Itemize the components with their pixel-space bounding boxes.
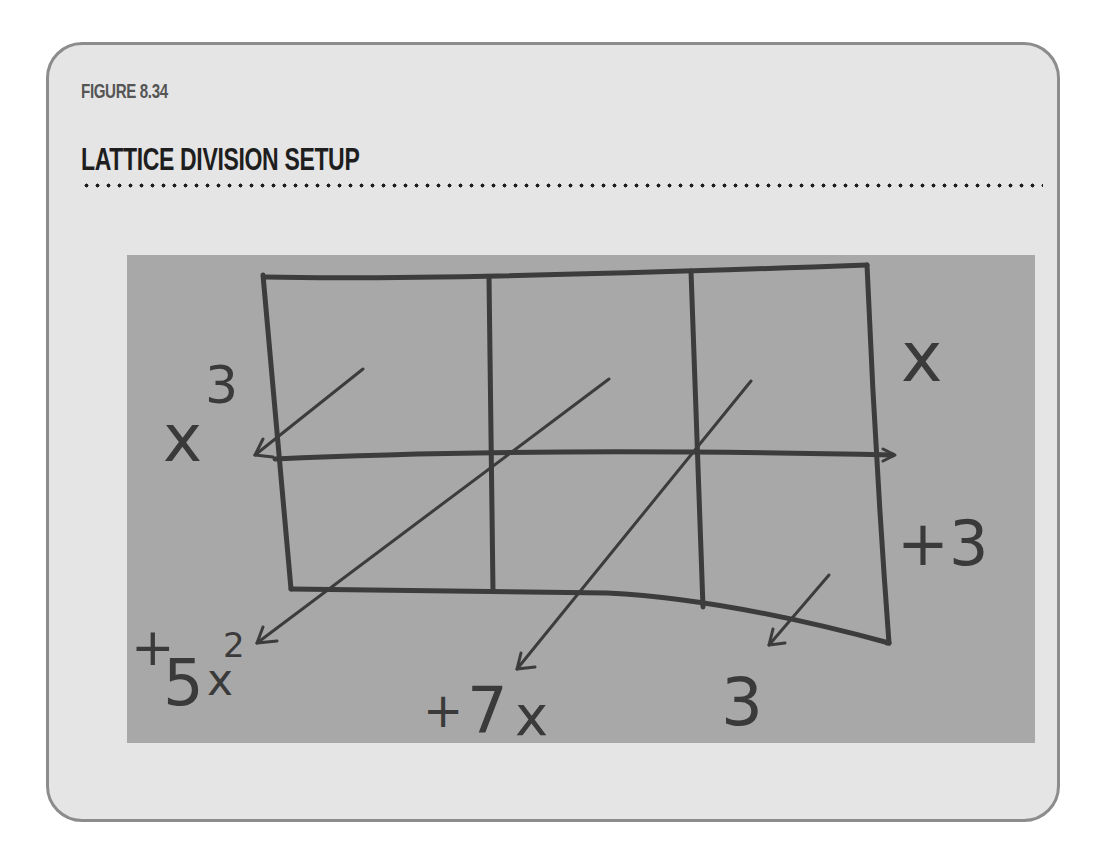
figure-title: LATTICE DIVISION SETUP <box>81 141 359 178</box>
grid-col-divider-2 <box>691 271 703 607</box>
bottom-term-2-coef: 7 <box>467 674 508 743</box>
bottom-term-2-sign: + <box>423 682 463 738</box>
figure-card: FIGURE 8.34 LATTICE DIVISION SETUP <box>46 42 1060 822</box>
top-left-term: x <box>163 400 202 477</box>
top-left-exponent: 3 <box>205 355 238 415</box>
arrow-diagonal-2 <box>257 379 609 643</box>
arrow-diagonal-3 <box>517 381 751 669</box>
grid-left-edge <box>263 275 291 589</box>
bottom-term-1-exp: 2 <box>223 625 245 665</box>
bottom-term-3-coef: 3 <box>721 664 763 741</box>
right-term-x: x <box>901 316 942 398</box>
right-term-plus3: +3 <box>897 507 988 580</box>
grid-middle-row <box>275 452 893 459</box>
bottom-term-1-coef: 5 <box>163 646 204 720</box>
dotted-divider <box>81 183 1043 188</box>
grid-top-edge <box>265 265 867 278</box>
grid-col-divider-1 <box>489 277 493 591</box>
arrow-diagonal-4 <box>769 575 829 645</box>
lattice-diagram: x 3 x +3 + 5 x 2 + 7 x 3 <box>127 255 1035 743</box>
bottom-term-2-var: x <box>515 683 548 743</box>
grid-bottom-edge <box>291 589 889 643</box>
lattice-photo: x 3 x +3 + 5 x 2 + 7 x 3 <box>127 255 1035 743</box>
figure-number: FIGURE 8.34 <box>81 79 168 103</box>
